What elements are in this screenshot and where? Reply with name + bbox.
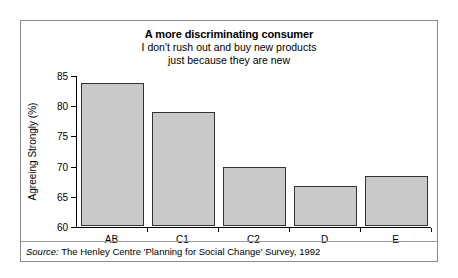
y-tick-label: 80 — [38, 101, 68, 112]
bar-c1 — [152, 112, 215, 226]
y-tick-label: 85 — [38, 71, 68, 82]
y-tick-label: 65 — [38, 191, 68, 202]
y-axis-title: Agreeing Strongly (%) — [26, 76, 40, 227]
bar-e — [365, 176, 428, 226]
y-tick — [71, 136, 76, 137]
y-tick-label: 60 — [38, 222, 68, 233]
x-tick-label: D — [321, 234, 328, 245]
subtitle-line-2: just because they are new — [21, 54, 437, 67]
page-title: A more discriminating consumer — [21, 27, 437, 41]
x-tick — [218, 228, 219, 232]
subtitle-line-1: I don't rush out and buy new products — [21, 41, 437, 54]
bar-ab — [81, 83, 144, 226]
y-tick-label: 70 — [38, 161, 68, 172]
y-tick-label: 75 — [38, 131, 68, 142]
y-tick — [71, 197, 76, 198]
y-tick — [71, 227, 76, 228]
x-axis-line — [76, 227, 431, 228]
y-axis-line — [76, 76, 77, 228]
source-label: Source: — [26, 246, 59, 257]
bar-c2 — [223, 167, 286, 226]
x-tick-label: C1 — [176, 234, 189, 245]
x-tick — [431, 228, 432, 232]
plot-area: 606570758085 ABC1C2DE — [76, 76, 431, 227]
source-note: Source: The Henley Centre 'Planning for … — [26, 246, 320, 257]
x-tick — [360, 228, 361, 232]
x-tick-label: E — [392, 234, 399, 245]
chart-figure: A more discriminating consumer I don't r… — [20, 20, 438, 262]
title-block: A more discriminating consumer I don't r… — [21, 27, 437, 67]
x-tick — [147, 228, 148, 232]
x-tick-label: C2 — [247, 234, 260, 245]
y-tick — [71, 76, 76, 77]
bar-d — [294, 186, 357, 226]
x-tick-label: AB — [105, 234, 118, 245]
source-divider — [21, 241, 437, 242]
x-tick — [289, 228, 290, 232]
y-tick — [71, 106, 76, 107]
source-text: The Henley Centre 'Planning for Social C… — [59, 246, 321, 257]
y-tick — [71, 167, 76, 168]
